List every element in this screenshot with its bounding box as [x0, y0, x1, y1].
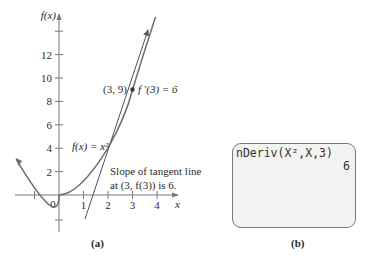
- caption-b: (b): [291, 237, 304, 249]
- y-tick-label: 8: [47, 95, 53, 107]
- y-tick-label: 6: [47, 119, 53, 131]
- calculator-input: nDeriv(X²,X,3): [236, 146, 333, 160]
- caption-a: (a): [91, 237, 104, 249]
- y-tick-label: 2: [47, 166, 53, 178]
- derivative-label: f ′(3) = 6: [138, 83, 178, 96]
- y-tick-label: 4: [47, 142, 53, 154]
- x-tick-label: 1: [81, 199, 87, 211]
- parabola-arrow-icon: [16, 158, 22, 166]
- function-label: f(x) = x²: [72, 140, 109, 153]
- annotation-line-1: Slope of tangent line: [110, 165, 201, 177]
- y-tick-label: 12: [41, 49, 52, 61]
- calculator-output: 6: [343, 159, 350, 173]
- y-axis-label: f(x): [41, 9, 57, 22]
- x-tick-label: 0: [50, 198, 56, 210]
- x-tick-label: 2: [105, 199, 111, 211]
- tangent-point: [130, 87, 134, 91]
- y-tick-label: 10: [41, 72, 53, 84]
- annotation-line-2: at (3, f(3)) is 6.: [110, 179, 177, 192]
- x-axis-label: x: [174, 198, 180, 210]
- x-tick-label: 3: [130, 199, 136, 211]
- calculator-screen: nDeriv(X²,X,3) 6: [232, 143, 356, 228]
- x-tick-label: 4: [154, 199, 160, 211]
- point-label: (3, 9): [103, 83, 127, 96]
